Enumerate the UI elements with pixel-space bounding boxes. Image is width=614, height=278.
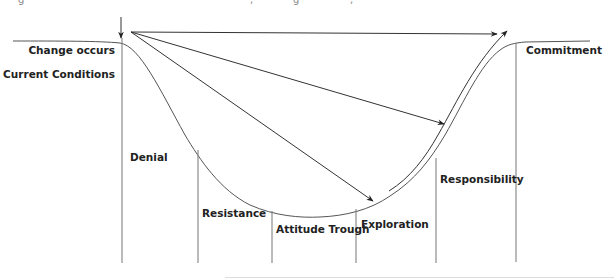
- arrow-to-commitment: [131, 32, 497, 34]
- arrow-to-exploration: [131, 32, 373, 201]
- label-current-conditions: Current Conditions: [3, 68, 115, 80]
- cut-off-caption-fragment: g , g ,: [18, 0, 353, 5]
- svg-text:,: ,: [250, 0, 253, 5]
- label-attitude-trough: Attitude Trough: [276, 223, 369, 235]
- arrow-to-responsibility: [131, 32, 444, 124]
- svg-text:g: g: [293, 0, 299, 5]
- label-commitment: Commitment: [526, 44, 602, 56]
- svg-text:,: ,: [350, 0, 353, 5]
- label-denial: Denial: [130, 151, 168, 163]
- arrow-exploration-to-commitment: [389, 31, 507, 191]
- label-change-occurs: Change occurs: [28, 44, 115, 56]
- svg-text:g: g: [18, 0, 24, 5]
- label-responsibility: Responsibility: [440, 173, 524, 185]
- label-exploration: Exploration: [361, 218, 429, 230]
- label-resistance: Resistance: [202, 207, 266, 219]
- change-curve-diagram: g , g , Change occurs Current Conditions…: [0, 0, 614, 278]
